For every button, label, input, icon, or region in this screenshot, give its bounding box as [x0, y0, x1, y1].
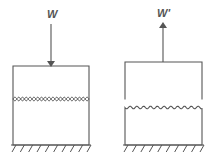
hatch-mark — [200, 145, 204, 152]
hatch-mark — [62, 145, 66, 152]
hatch-mark — [141, 145, 145, 152]
load-label-w-prime: W' — [157, 7, 170, 19]
panel-compressed: W — [11, 8, 91, 152]
diagram-canvas: W W' — [0, 0, 213, 166]
hatch-mark — [183, 145, 187, 152]
hatch-mark — [175, 145, 179, 152]
lower-block-rough — [125, 106, 202, 145]
hatch-mark — [37, 145, 41, 152]
hatch-mark — [192, 145, 196, 152]
hatch-mark — [132, 145, 136, 152]
hatch-mark — [45, 145, 49, 152]
panel-separated: W' — [123, 7, 204, 152]
hatch-mark — [158, 145, 162, 152]
hatch-mark — [149, 145, 153, 152]
hatch-mark — [79, 145, 83, 152]
ground-hatching — [124, 145, 204, 152]
hatch-mark — [29, 145, 33, 152]
lower-block — [13, 99, 89, 145]
asperity-profile-2 — [13, 97, 89, 101]
hatch-mark — [20, 145, 24, 152]
ground-hatching — [12, 145, 91, 152]
hatch-mark — [87, 145, 91, 152]
upper-block — [13, 66, 89, 99]
upper-block-rough — [125, 62, 202, 100]
hatch-mark — [54, 145, 58, 152]
hatch-mark — [124, 145, 128, 152]
hatch-mark — [12, 145, 16, 152]
hatch-mark — [70, 145, 74, 152]
contact-diagram: W W' — [0, 0, 213, 166]
interlocked-interface — [13, 97, 89, 101]
hatch-mark — [166, 145, 170, 152]
load-label-w: W — [47, 8, 59, 20]
